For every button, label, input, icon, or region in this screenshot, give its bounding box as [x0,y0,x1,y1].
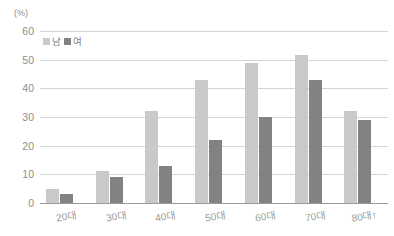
bar-female [159,166,172,203]
y-axis-tick-label: 0 [10,197,34,209]
legend-swatch-icon [43,38,50,45]
x-axis-tick-label: 60대 [239,204,290,227]
legend-swatch-icon [64,38,71,45]
y-axis-tick-label: 60 [10,25,34,37]
x-axis-tick-label: 50대 [189,204,240,227]
y-axis-tick-labels: 0102030405060 [8,31,34,203]
y-axis-unit-label: (%) [14,8,28,18]
legend-item: 남 [43,37,61,47]
bar-group [239,31,289,203]
bar-group [139,31,189,203]
y-axis-tick-label: 10 [10,168,34,180]
bar-female [358,120,371,203]
y-axis-tick-label: 50 [10,54,34,66]
legend-item: 여 [64,37,82,47]
x-axis-tick-label: 40대 [140,204,191,227]
bar-female [209,140,222,203]
bar-female [259,117,272,203]
bar-group [90,31,140,203]
legend-label: 남 [52,37,61,47]
x-axis-tick-label: 70대 [289,204,340,227]
bar-male [46,189,59,203]
bar-groups [40,31,388,203]
bar-male [344,111,357,203]
plot-area [40,31,388,203]
bar-male [195,80,208,203]
y-axis-tick-label: 40 [10,82,34,94]
bar-female [60,194,73,203]
legend-label: 여 [73,37,82,47]
bar-group [289,31,339,203]
chart-legend: 남여 [43,37,82,47]
bar-female [110,177,123,203]
x-axis-tick-label: 20대 [40,204,91,227]
bar-group [338,31,388,203]
bar-male [96,171,109,203]
y-axis-tick-label: 30 [10,111,34,123]
bar-group [40,31,90,203]
x-axis-tick-label: 30대 [90,204,141,227]
bar-female [309,80,322,203]
bar-chart: (%) 0102030405060 20대30대40대50대60대70대80대↑… [0,0,394,236]
bar-male [145,111,158,203]
bar-male [245,63,258,203]
bar-male [295,55,308,203]
x-axis-tick-label: 80대↑ [339,204,390,227]
bar-group [189,31,239,203]
y-axis-tick-label: 20 [10,140,34,152]
x-axis-tick-labels: 20대30대40대50대60대70대80대↑ [40,208,388,230]
